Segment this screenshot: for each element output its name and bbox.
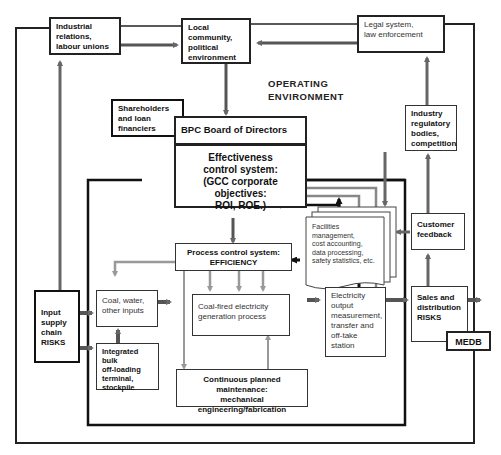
node-legal-system: Legal system, law enforcement <box>357 15 445 53</box>
node-coal-fired-generation: Coal-fired electricity generation proces… <box>192 294 290 336</box>
node-medb: MEDB <box>446 331 491 351</box>
node-industrial-relations: Industrial relations, labour unions <box>49 17 121 55</box>
node-effectiveness-control: Effectiveness control system: (GCC corpo… <box>174 144 307 208</box>
env-label-line-1: OPERATING <box>268 77 344 90</box>
node-customer-feedback: Customer feedback <box>411 213 465 250</box>
node-board-of-directors: BPC Board of Directors <box>174 116 307 145</box>
node-input-supply-risks: Input supply chain RISKS <box>34 290 80 363</box>
node-integrated-bulk-terminal: Integrated bulk off-loading terminal, st… <box>96 343 159 390</box>
node-facilities-documents: Facilities management, cost accounting, … <box>312 223 384 266</box>
node-electricity-output: Electricity output measurement, transfer… <box>325 287 386 357</box>
node-continuous-maintenance: Continuous planned maintenance: mechanic… <box>176 369 308 407</box>
env-label-line-2: ENVIRONMENT <box>268 90 344 103</box>
node-industry-regulatory: Industry regulatory bodies, competition <box>405 105 457 151</box>
node-process-control: Process control system: EFFICIENCY <box>175 243 292 271</box>
operating-environment-label: OPERATING ENVIRONMENT <box>268 77 344 103</box>
node-local-community: Local community, political environment <box>181 18 251 64</box>
node-coal-water-inputs: Coal, water, other inputs <box>96 290 158 327</box>
